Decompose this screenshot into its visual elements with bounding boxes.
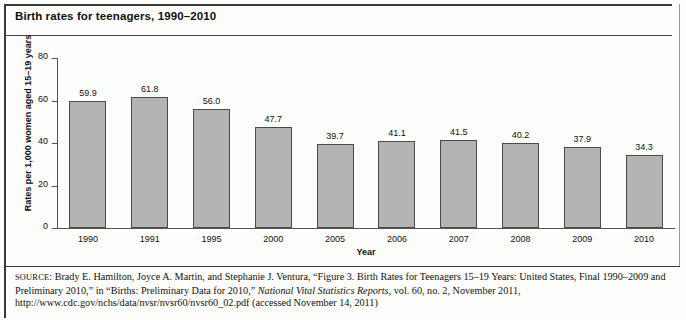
source-label: SOURCE bbox=[15, 273, 49, 282]
x-axis-tick-label: 2010 bbox=[626, 234, 663, 244]
bar[interactable] bbox=[378, 141, 415, 228]
bar-value-label: 39.7 bbox=[317, 131, 354, 141]
bar[interactable] bbox=[255, 127, 292, 228]
bar-group[interactable]: 37.92009 bbox=[564, 58, 601, 228]
bar-group[interactable]: 41.12006 bbox=[378, 58, 415, 228]
y-axis-tick: 0 bbox=[52, 228, 57, 229]
x-axis-tick-label: 2009 bbox=[564, 234, 601, 244]
bar[interactable] bbox=[564, 147, 601, 228]
x-axis-tick-label: 1991 bbox=[131, 234, 168, 244]
bar[interactable] bbox=[502, 143, 539, 228]
x-axis-tick-label: 1995 bbox=[193, 234, 230, 244]
bar-group[interactable]: 47.72000 bbox=[255, 58, 292, 228]
bar-group[interactable]: 40.22008 bbox=[502, 58, 539, 228]
figure-container: Birth rates for teenagers, 1990–2010 Rat… bbox=[0, 0, 686, 320]
source-note: SOURCE: Brady E. Hamilton, Joyce A. Mart… bbox=[15, 271, 675, 310]
bar-value-label: 37.9 bbox=[564, 134, 601, 144]
plot-area: 020406080 59.9199061.8199156.0199547.720… bbox=[57, 58, 675, 228]
bar-group[interactable]: 39.72005 bbox=[317, 58, 354, 228]
x-axis-tick-label: 2006 bbox=[378, 234, 415, 244]
bar[interactable] bbox=[193, 109, 230, 228]
frame-top-border bbox=[4, 4, 672, 6]
bar[interactable] bbox=[131, 97, 168, 228]
bar[interactable] bbox=[626, 155, 663, 228]
bar-chart: Rates per 1,000 women aged 15–19 years 0… bbox=[0, 40, 686, 268]
bar-group[interactable]: 41.52007 bbox=[440, 58, 477, 228]
y-axis-tick-label: 40 bbox=[38, 136, 48, 146]
bar-value-label: 47.7 bbox=[255, 114, 292, 124]
bar-group[interactable]: 59.91990 bbox=[69, 58, 106, 228]
x-axis-tick-label: 2008 bbox=[502, 234, 539, 244]
bar-value-label: 61.8 bbox=[131, 84, 168, 94]
y-axis-tick-label: 80 bbox=[38, 51, 48, 61]
x-axis-line bbox=[57, 228, 675, 229]
y-axis-tick-label: 0 bbox=[43, 221, 48, 231]
bar-value-label: 41.1 bbox=[378, 128, 415, 138]
bar[interactable] bbox=[317, 144, 354, 228]
bar-value-label: 56.0 bbox=[193, 96, 230, 106]
source-publication-title: National Vital Statistics Reports bbox=[258, 285, 389, 296]
y-axis-title: Rates per 1,000 women aged 15–19 years bbox=[23, 33, 33, 213]
bar-value-label: 34.3 bbox=[626, 142, 663, 152]
title-divider-rule bbox=[6, 35, 672, 36]
bar[interactable] bbox=[69, 101, 106, 228]
x-axis-tick-label: 2005 bbox=[317, 234, 354, 244]
bar-value-label: 59.9 bbox=[69, 88, 106, 98]
y-axis-tick-label: 20 bbox=[38, 179, 48, 189]
bar-group[interactable]: 61.81991 bbox=[131, 58, 168, 228]
x-axis-tick-label: 2000 bbox=[255, 234, 292, 244]
x-axis-tick-label: 2007 bbox=[440, 234, 477, 244]
y-axis-tick-label: 60 bbox=[38, 94, 48, 104]
x-axis-title: Year bbox=[57, 247, 675, 257]
bar-group[interactable]: 56.01995 bbox=[193, 58, 230, 228]
bar-value-label: 40.2 bbox=[502, 130, 539, 140]
bar[interactable] bbox=[440, 140, 477, 228]
bar-value-label: 41.5 bbox=[440, 127, 477, 137]
bar-series: 59.9199061.8199156.0199547.7200039.72005… bbox=[57, 58, 675, 228]
figure-title: Birth rates for teenagers, 1990–2010 bbox=[15, 10, 216, 22]
bar-group[interactable]: 34.32010 bbox=[626, 58, 663, 228]
x-axis-tick-label: 1990 bbox=[69, 234, 106, 244]
